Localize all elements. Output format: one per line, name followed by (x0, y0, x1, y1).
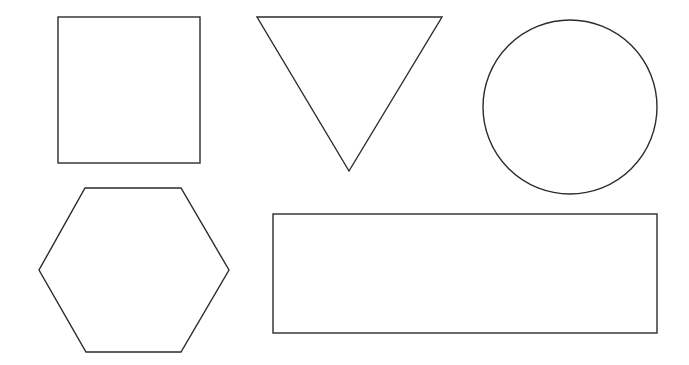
circle-shape (483, 20, 657, 194)
square-shape (58, 17, 200, 163)
hexagon-shape (39, 188, 229, 352)
rectangle-shape (273, 214, 657, 333)
triangle-shape (257, 17, 442, 171)
shapes-canvas (0, 0, 689, 365)
